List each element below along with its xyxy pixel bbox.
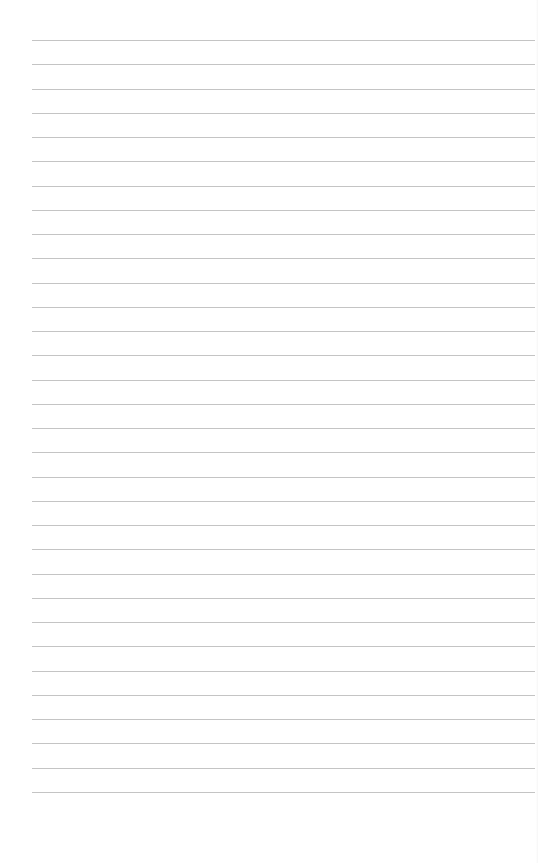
lined-paper-page xyxy=(0,0,538,863)
ruled-line xyxy=(32,404,535,405)
ruled-line xyxy=(32,137,535,138)
ruled-line xyxy=(32,428,535,429)
ruled-line xyxy=(32,89,535,90)
ruled-line xyxy=(32,40,535,41)
ruled-line xyxy=(32,646,535,647)
ruled-line xyxy=(32,307,535,308)
ruled-line xyxy=(32,598,535,599)
ruled-line xyxy=(32,64,535,65)
ruled-line xyxy=(32,186,535,187)
ruled-line xyxy=(32,574,535,575)
ruled-line xyxy=(32,768,535,769)
ruled-line xyxy=(32,743,535,744)
ruled-line xyxy=(32,477,535,478)
ruled-line xyxy=(32,452,535,453)
ruled-line xyxy=(32,331,535,332)
ruled-line xyxy=(32,719,535,720)
ruled-line xyxy=(32,210,535,211)
ruled-line xyxy=(32,695,535,696)
ruled-line xyxy=(32,380,535,381)
ruled-line xyxy=(32,622,535,623)
ruled-line xyxy=(32,113,535,114)
ruled-line xyxy=(32,671,535,672)
ruled-line xyxy=(32,234,535,235)
ruled-line xyxy=(32,501,535,502)
ruled-line xyxy=(32,525,535,526)
ruled-line xyxy=(32,355,535,356)
ruled-line xyxy=(32,258,535,259)
ruled-line xyxy=(32,792,535,793)
ruled-line xyxy=(32,161,535,162)
ruled-line xyxy=(32,283,535,284)
ruled-line xyxy=(32,549,535,550)
